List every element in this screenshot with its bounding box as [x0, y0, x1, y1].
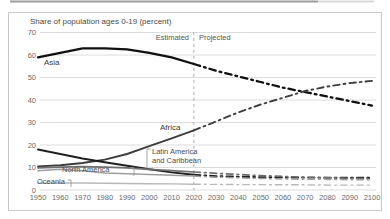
north-america-series-label-text: North America: [62, 165, 110, 174]
y-tick-label: 10: [28, 163, 36, 172]
x-tick-label: 1980: [96, 193, 113, 202]
x-tick-label: 1970: [74, 193, 91, 202]
x-tick-label: 2020: [186, 193, 203, 202]
latin-america-series-label-line2: and Caribbean: [152, 156, 201, 165]
x-tick-label: 2080: [319, 193, 336, 202]
x-tick-label: 2000: [141, 193, 158, 202]
estimated-label: Estimated: [156, 33, 189, 42]
y-tick-label: 50: [28, 73, 36, 82]
latin-america-series-label-line1: Latin America: [152, 147, 198, 156]
x-tick-label: 1960: [52, 193, 69, 202]
x-tick-label: 2100: [364, 193, 381, 202]
x-tick-label: 2010: [163, 193, 180, 202]
x-tick-label: 2050: [252, 193, 269, 202]
screenshot-root: Share of population ages 0-19 (percent) …: [0, 0, 390, 219]
asia-series-label: Asia: [44, 58, 60, 67]
y-tick-label: 20: [28, 141, 36, 150]
oceania-series-label-text: Oceania: [37, 177, 66, 186]
latin-america-caribbean-series-label: Latin America and Caribbean: [147, 147, 201, 167]
x-tick-label: 2090: [341, 193, 358, 202]
y-tick-label: 40: [28, 96, 36, 105]
x-tick-label: 2040: [230, 193, 247, 202]
population-share-chart: Share of population ages 0-19 (percent) …: [0, 0, 390, 219]
x-tick-label: 1990: [119, 193, 136, 202]
chart-title: Share of population ages 0-19 (percent): [30, 17, 172, 26]
x-tick-label: 2060: [275, 193, 292, 202]
y-tick-label: 30: [28, 118, 36, 127]
x-tick-label: 2030: [208, 193, 225, 202]
x-tick-label: 2070: [297, 193, 314, 202]
projected-label: Projected: [199, 33, 231, 42]
y-tick-label: 70: [28, 28, 36, 37]
africa-series-label: Africa: [160, 123, 181, 132]
y-tick-label: 60: [28, 51, 36, 60]
x-tick-label: 1950: [30, 193, 47, 202]
